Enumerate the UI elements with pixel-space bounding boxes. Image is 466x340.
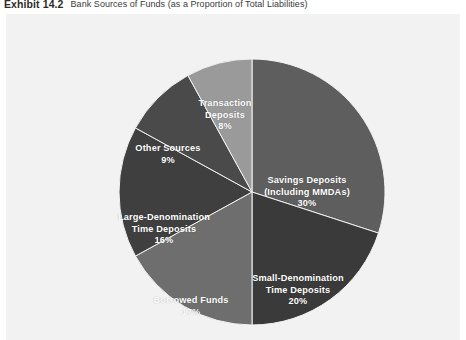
slice-label-line1: Borrowed Funds bbox=[153, 295, 228, 305]
slice-label-line1: Savings Deposits bbox=[268, 175, 347, 185]
exhibit-number-label: Exhibit 14.2 bbox=[4, 0, 64, 10]
slice-label-line2: (Including MMDAs) bbox=[264, 187, 350, 197]
exhibit-figure: Exhibit 14.2 Bank Sources of Funds (as a… bbox=[0, 0, 466, 340]
slice-label-transaction-deposits: Transaction Deposits 8% bbox=[177, 98, 273, 133]
slice-percent-other-sources: 9% bbox=[116, 155, 220, 167]
slice-label-line2: Deposits bbox=[205, 110, 245, 120]
slice-percent-large-denomination-time-deposits: 16% bbox=[100, 235, 228, 247]
slice-label-line1: Transaction bbox=[198, 98, 251, 108]
slice-label-borrowed-funds: Borrowed Funds 17% bbox=[137, 295, 245, 318]
slice-label-savings-deposits: Savings Deposits (Including MMDAs) 30% bbox=[249, 175, 365, 210]
slice-label-small-denomination-time-deposits: Small-Denomination Time Deposits 20% bbox=[236, 273, 360, 308]
slice-percent-transaction-deposits: 8% bbox=[177, 121, 273, 133]
slice-label-line2: Time Deposits bbox=[132, 224, 197, 234]
exhibit-title: Bank Sources of Funds (as a Proportion o… bbox=[71, 0, 308, 9]
slice-percent-borrowed-funds: 17% bbox=[137, 307, 245, 319]
exhibit-header: Exhibit 14.2 Bank Sources of Funds (as a… bbox=[0, 0, 466, 12]
slice-label-line1: Large-Denomination bbox=[118, 212, 210, 222]
slice-label-other-sources: Other Sources 9% bbox=[116, 143, 220, 166]
slice-label-line2: Time Deposits bbox=[266, 285, 331, 295]
slice-label-line1: Other Sources bbox=[135, 143, 200, 153]
slice-percent-savings-deposits: 30% bbox=[249, 198, 365, 210]
slice-label-line1: Small-Denomination bbox=[252, 273, 344, 283]
slice-percent-small-denomination-time-deposits: 20% bbox=[236, 296, 360, 308]
chart-panel: Savings Deposits (Including MMDAs) 30% S… bbox=[6, 14, 460, 340]
slice-label-large-denomination-time-deposits: Large-Denomination Time Deposits 16% bbox=[100, 212, 228, 247]
